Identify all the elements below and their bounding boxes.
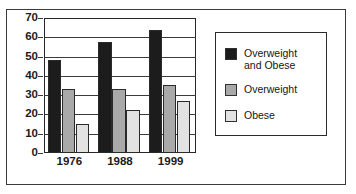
y-tick-label: 70 xyxy=(12,12,38,24)
y-tick-mark xyxy=(38,134,43,135)
y-tick-mark xyxy=(38,95,43,96)
legend-swatch-overweight-and-obese xyxy=(225,48,237,60)
legend-item: Overweight xyxy=(225,83,297,96)
y-tick-mark xyxy=(38,76,43,77)
x-axis: 197619881999 xyxy=(44,156,196,172)
bar-chart-figure: 010203040506070 197619881999 Overweight … xyxy=(0,0,356,194)
legend-label: Obese xyxy=(244,109,275,121)
x-tick-label: 1988 xyxy=(95,156,146,168)
y-tick-label: 60 xyxy=(12,31,38,43)
bar xyxy=(149,30,163,153)
legend-item: Obese xyxy=(225,109,275,122)
bar xyxy=(112,89,126,153)
y-tick-mark xyxy=(38,18,43,19)
y-tick-label: 40 xyxy=(12,70,38,82)
legend-label: Overweight xyxy=(244,83,297,95)
y-tick-label: 20 xyxy=(12,108,38,120)
y-tick-label: 30 xyxy=(12,89,38,101)
bar xyxy=(48,60,62,153)
legend-swatch-overweight xyxy=(225,84,237,96)
y-tick-mark xyxy=(38,153,43,154)
y-tick-mark xyxy=(38,57,43,58)
x-tick-label: 1999 xyxy=(145,156,196,168)
y-axis: 010203040506070 xyxy=(8,0,38,173)
y-tick-mark xyxy=(38,114,43,115)
legend-swatch-obese xyxy=(225,110,237,122)
bar xyxy=(62,89,76,153)
bar xyxy=(126,110,140,153)
bar xyxy=(76,124,90,153)
y-tick-label: 10 xyxy=(12,128,38,140)
y-tick-label: 0 xyxy=(12,147,38,159)
bar xyxy=(177,101,191,153)
bar xyxy=(163,85,177,153)
plot-area-wrapper xyxy=(44,18,196,153)
legend-item: Overweight and Obese xyxy=(225,47,297,72)
y-tick-label: 50 xyxy=(12,51,38,63)
bar xyxy=(98,42,112,153)
x-tick-label: 1976 xyxy=(44,156,95,168)
legend-label: Overweight and Obese xyxy=(244,47,297,72)
y-tick-mark xyxy=(38,37,43,38)
bars-layer xyxy=(44,18,196,153)
chart-legend: Overweight and ObeseOverweightObese xyxy=(215,32,327,136)
